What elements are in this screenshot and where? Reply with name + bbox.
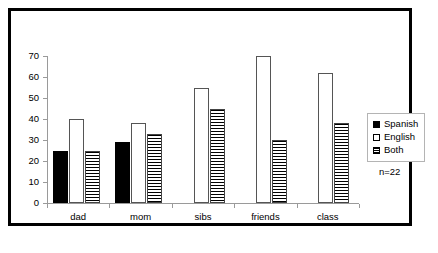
y-tick-mark: [43, 140, 47, 141]
x-category-label-class: class: [297, 211, 359, 222]
x-axis-line: [47, 203, 359, 204]
bar-friends-english: [256, 56, 271, 203]
legend-swatch-spanish-icon: [373, 121, 380, 128]
y-tick-label: 0: [13, 198, 39, 207]
y-tick-mark: [43, 56, 47, 57]
x-tick-mark: [234, 204, 235, 208]
y-tick-label: 40: [13, 114, 39, 123]
bar-sibs-english: [194, 88, 209, 204]
y-tick-label: 50: [13, 93, 39, 102]
y-tick-mark: [43, 98, 47, 99]
legend-label: Both: [384, 145, 404, 155]
legend-swatch-english-icon: [373, 134, 380, 141]
legend-item-spanish[interactable]: Spanish: [373, 118, 418, 130]
legend: SpanishEnglishBoth: [367, 113, 425, 162]
bar-sibs-both: [210, 109, 225, 204]
legend-label: Spanish: [384, 119, 418, 129]
x-tick-mark: [47, 204, 48, 208]
x-category-label-mom: mom: [109, 211, 171, 222]
y-tick-label: 10: [13, 177, 39, 186]
chart-frame: 010203040506070 dadmomsibsfriendsclass S…: [8, 8, 412, 226]
y-tick-label: 30: [13, 135, 39, 144]
y-tick-mark: [43, 119, 47, 120]
bar-mom-both: [147, 134, 162, 203]
y-tick-mark: [43, 182, 47, 183]
bar-class-both: [334, 123, 349, 203]
legend-item-both[interactable]: Both: [373, 144, 418, 156]
bar-dad-english: [69, 119, 84, 203]
x-tick-mark: [359, 204, 360, 208]
bar-dad-both: [85, 151, 100, 204]
plot-area: 010203040506070 dadmomsibsfriendsclass S…: [11, 11, 415, 229]
bar-dad-spanish: [53, 151, 68, 204]
y-axis-line: [47, 56, 48, 203]
legend-label: English: [384, 132, 415, 142]
y-tick-label: 70: [13, 51, 39, 60]
bar-class-english: [318, 73, 333, 203]
x-tick-mark: [109, 204, 110, 208]
x-category-label-sibs: sibs: [172, 211, 234, 222]
sample-size-note: n=22: [379, 166, 400, 177]
x-category-label-dad: dad: [47, 211, 109, 222]
bar-friends-both: [272, 140, 287, 203]
legend-item-english[interactable]: English: [373, 131, 418, 143]
x-tick-mark: [297, 204, 298, 208]
x-category-label-friends: friends: [234, 211, 296, 222]
legend-swatch-both-icon: [373, 147, 380, 154]
y-tick-label: 60: [13, 72, 39, 81]
bar-mom-spanish: [115, 142, 130, 203]
y-tick-label: 20: [13, 156, 39, 165]
bar-mom-english: [131, 123, 146, 203]
x-tick-mark: [172, 204, 173, 208]
y-tick-mark: [43, 77, 47, 78]
y-tick-mark: [43, 161, 47, 162]
